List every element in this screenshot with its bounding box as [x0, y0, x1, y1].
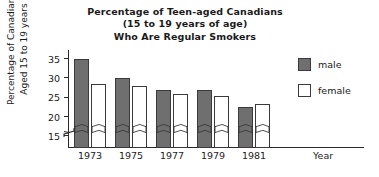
chart-title: Percentage of Teen-aged Canadians (15 to…: [60, 6, 310, 43]
bar-break-icon: [75, 124, 88, 133]
y-tick-label: 20: [48, 111, 60, 122]
x-tick-label-1973: 1973: [69, 150, 111, 161]
x-tick-label-1977: 1977: [151, 150, 193, 161]
x-tick-label-1981: 1981: [233, 150, 275, 161]
bar-female-1977: [173, 94, 188, 148]
y-tick-mark: [64, 77, 69, 78]
chart-container: Percentage of Teen-aged Canadians (15 to…: [0, 0, 379, 177]
bar-break-icon: [157, 124, 170, 133]
bar-male-1977: [156, 90, 171, 148]
bar-break-icon: [239, 124, 252, 133]
bar-break-icon: [256, 124, 269, 133]
legend-label-female: female: [318, 85, 351, 96]
legend-swatch-female: [298, 84, 311, 97]
legend-item-female: female: [298, 84, 351, 97]
x-tick-label-1975: 1975: [110, 150, 152, 161]
bar-break-icon: [133, 124, 146, 133]
bar-female-1975: [132, 86, 147, 148]
bar-male-1979: [197, 90, 212, 148]
bar-break-icon: [174, 124, 187, 133]
bar-male-1973: [74, 59, 89, 148]
x-tick-label-1979: 1979: [192, 150, 234, 161]
y-tick-label: 35: [48, 53, 60, 64]
bar-break-icon: [215, 124, 228, 133]
bar-female-1981: [255, 104, 270, 148]
legend: male female: [298, 58, 351, 110]
y-tick-mark: [64, 116, 69, 117]
x-axis-label: Year: [313, 150, 333, 161]
legend-label-male: male: [318, 59, 342, 70]
bar-female-1979: [214, 96, 229, 148]
bar-break-icon: [198, 124, 211, 133]
chart-title-line-1: Percentage of Teen-aged Canadians: [60, 6, 310, 18]
y-tick-mark: [64, 97, 69, 98]
y-axis-label: Percentage of Canadians Aged 15 to 19 ye…: [5, 0, 39, 108]
y-axis-break-icon: [63, 127, 76, 138]
bar-break-icon: [116, 124, 129, 133]
y-tick-label: 15: [48, 130, 60, 141]
y-axis-label-line-1: Percentage of Canadians: [5, 0, 18, 108]
bar-male-1975: [115, 78, 130, 148]
chart-title-line-2: (15 to 19 years of age): [60, 18, 310, 30]
chart-title-line-3: Who Are Regular Smokers: [60, 31, 310, 43]
y-tick-label: 30: [48, 72, 60, 83]
bar-female-1973: [91, 84, 106, 148]
y-axis-label-line-2: Aged 15 to 19 years: [18, 0, 31, 108]
y-tick-mark: [64, 58, 69, 59]
y-tick-label: 25: [48, 92, 60, 103]
bar-break-icon: [92, 124, 105, 133]
legend-item-male: male: [298, 58, 351, 71]
bar-male-1981: [238, 107, 253, 148]
legend-swatch-male: [298, 58, 311, 71]
plot-area: 3530252015 19731975197719791981 Year: [68, 50, 284, 148]
